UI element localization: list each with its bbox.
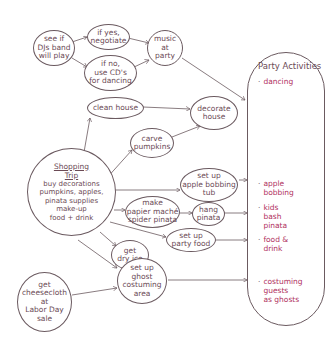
node-make-papier-mache-pinata: make papier maché spider pinata [125, 196, 180, 228]
bullet-icon: · [258, 203, 260, 212]
activity-apple-bobbing: ·apple bobbing [258, 179, 294, 197]
party-activities-panel: Party Activities ·dancing ·apple bobbing… [247, 52, 325, 326]
activity-text: costuming guests as ghosts [263, 277, 302, 304]
node-if-no-use-cds: if no, use CD's for dancing [84, 55, 137, 91]
shopping-trip-items: buy decorations pumpkins, apples, pinata… [40, 180, 104, 223]
bullet-icon: · [258, 179, 260, 188]
bullet-icon: · [258, 235, 260, 244]
activity-food-drink: ·food & drink [258, 235, 288, 253]
node-shopping-trip: Shopping Trip buy decorations pumpkins, … [27, 148, 116, 236]
activity-kids-bash-pinata: ·kids bash pinata [258, 203, 287, 230]
node-get-cheesecloth: get cheesecloth at Labor Day sale [17, 272, 72, 332]
bullet-icon: · [258, 77, 260, 86]
panel-title: Party Activities [258, 61, 321, 71]
node-set-up-apple-bobbing: set up apple bobbing tub [180, 168, 238, 202]
node-hang-pinata: hang pinata [192, 202, 225, 226]
node-set-up-ghost-costuming-area: set up ghost costuming area [117, 258, 167, 304]
activity-text: apple bobbing [263, 179, 293, 197]
node-set-up-party-food: set up party food [166, 228, 216, 252]
node-if-yes-negotiate: if yes, negotiate [87, 24, 130, 50]
node-clean-house: clean house [87, 97, 144, 119]
node-see-if-band-will-play: see if DJs band will play [33, 30, 75, 66]
activity-text: food & drink [263, 235, 288, 253]
activity-costuming-guests: ·costuming guests as ghosts [258, 277, 303, 304]
bullet-icon: · [258, 277, 260, 286]
node-carve-pumpkins: carve pumpkins [130, 128, 174, 158]
activity-text: dancing [263, 77, 293, 86]
node-decorate-house: decorate house [190, 96, 238, 130]
activity-dancing: ·dancing [258, 77, 293, 86]
activity-text: kids bash pinata [263, 203, 287, 230]
node-music-at-party: music at party [147, 30, 183, 66]
shopping-trip-title: Shopping Trip [54, 162, 89, 180]
